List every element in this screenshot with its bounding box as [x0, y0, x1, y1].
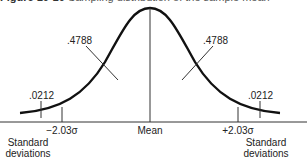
left-tail-area-label: .0212: [29, 90, 54, 101]
right-tick-label: +2.03σ: [222, 125, 253, 136]
left-center-area-label: .4788: [67, 35, 92, 46]
left-axis-caption-line2: deviations: [5, 148, 50, 157]
left-tick-label: −2.03σ: [46, 125, 77, 136]
right-center-area-label: .4788: [203, 35, 228, 46]
right-center-leader: [182, 46, 213, 80]
left-center-leader: [86, 46, 118, 80]
mean-label: Mean: [137, 125, 162, 136]
right-axis-caption-line2: deviations: [243, 148, 288, 157]
left-axis-caption-line1: Standard: [8, 137, 49, 148]
right-tail-area-label: .0212: [248, 90, 273, 101]
right-axis-caption-line1: Standard: [246, 137, 287, 148]
